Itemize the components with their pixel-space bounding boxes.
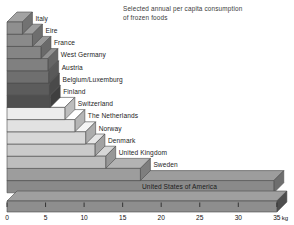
- bar-face: [7, 71, 49, 83]
- chart-title: Selected annual per capita consumption o…: [123, 5, 293, 22]
- bar-face: [7, 201, 277, 212]
- bar-face: [7, 46, 41, 58]
- bar-face: [7, 132, 86, 144]
- frozen-foods-bar-chart: Selected annual per capita consumption o…: [0, 0, 294, 225]
- bar-label-2: Eire: [45, 27, 57, 34]
- chart-plot-area: [0, 0, 294, 225]
- bar-label-1: Italy: [35, 15, 48, 22]
- bar-face: [7, 120, 75, 132]
- bar-face: [7, 156, 106, 168]
- bar-face: [7, 22, 22, 34]
- x-tick-label-10: 10: [80, 214, 87, 221]
- bar-face: [7, 144, 95, 156]
- x-tick-label-30: 30: [235, 214, 242, 221]
- x-tick-label-15: 15: [119, 214, 126, 221]
- bar-label-6: Belgium/Luxemburg: [62, 76, 122, 83]
- bar-label-14: United States of America: [142, 183, 217, 190]
- chart-title-line-2: of frozen foods: [123, 14, 168, 21]
- bar-face: [7, 107, 65, 119]
- bar-face: [7, 83, 49, 95]
- axis-unit-label: kg: [282, 215, 288, 221]
- x-tick-label-20: 20: [158, 214, 165, 221]
- x-tick-label-5: 5: [44, 214, 48, 221]
- bar-label-11: Denmark: [108, 137, 135, 144]
- bar-label-12: United Kingdom: [119, 149, 167, 156]
- bar-face: [7, 191, 287, 201]
- bar-label-10: Norway: [99, 125, 122, 132]
- bar-face: [7, 34, 32, 46]
- bar-label-3: France: [54, 39, 75, 46]
- chart-title-line-1: Selected annual per capita consumption: [123, 5, 242, 12]
- bar-face: [7, 59, 48, 71]
- bar-label-13: Sweden: [153, 161, 177, 168]
- x-tick-label-25: 25: [196, 214, 203, 221]
- bar-label-4: West Germany: [61, 51, 106, 58]
- bar-label-5: Austria: [62, 64, 83, 71]
- bar-label-7: Finland: [63, 88, 85, 95]
- x-axis-slab: [7, 191, 287, 212]
- bar-label-8: Switzerland: [78, 100, 113, 107]
- x-tick-label-0: 0: [5, 214, 9, 221]
- bar-face: [7, 95, 50, 107]
- bar-face: [7, 168, 140, 180]
- bar-label-9: The Netherlands: [88, 112, 138, 119]
- x-tick-label-35: 35: [273, 214, 280, 221]
